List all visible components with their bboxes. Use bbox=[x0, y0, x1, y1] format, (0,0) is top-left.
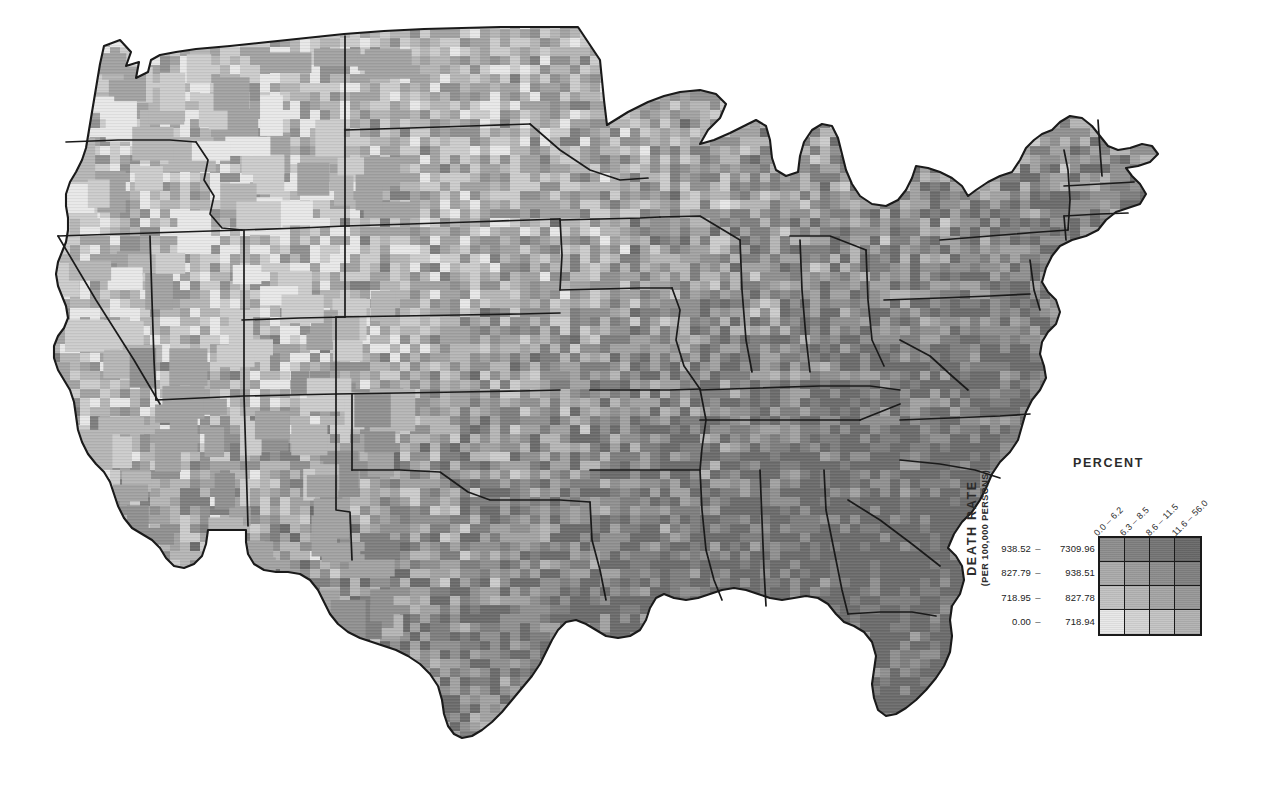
legend-row-dash: – bbox=[1031, 616, 1045, 627]
legend-swatch bbox=[1175, 538, 1200, 562]
legend-row-label: 0.00–718.94 bbox=[983, 610, 1095, 635]
legend-swatch bbox=[1150, 610, 1175, 634]
legend-row-label-list: 938.52–7309.96827.79–938.51718.95–827.78… bbox=[983, 536, 1095, 634]
map-legend: PERCENT DEATH RATE (PER 100,000 PERSONS)… bbox=[955, 448, 1220, 653]
legend-row-low: 0.00 bbox=[989, 616, 1031, 627]
legend-swatch bbox=[1125, 538, 1150, 562]
legend-row-label: 827.79–938.51 bbox=[983, 561, 1095, 586]
legend-row-label: 718.95–827.78 bbox=[983, 585, 1095, 610]
legend-column-label-list: 0.0 – 6.26.3 – 8.58.6 – 11.511.6 – 56.0 bbox=[1095, 460, 1215, 538]
legend-row-high: 827.78 bbox=[1045, 592, 1095, 603]
legend-swatch bbox=[1100, 562, 1125, 586]
legend-row-label: 938.52–7309.96 bbox=[983, 536, 1095, 561]
map-page: PERCENT DEATH RATE (PER 100,000 PERSONS)… bbox=[0, 0, 1267, 793]
legend-color-matrix bbox=[1098, 536, 1202, 636]
legend-swatch bbox=[1125, 610, 1150, 634]
us-county-map-graphic bbox=[0, 0, 1267, 793]
legend-row-low: 718.95 bbox=[989, 592, 1031, 603]
legend-swatch bbox=[1150, 538, 1175, 562]
legend-swatch bbox=[1125, 586, 1150, 610]
legend-row-dash: – bbox=[1031, 567, 1045, 578]
legend-death-rate-title: DEATH RATE bbox=[965, 468, 979, 588]
choropleth-map-figure bbox=[0, 0, 1267, 793]
legend-swatch bbox=[1150, 586, 1175, 610]
legend-row-high: 718.94 bbox=[1045, 616, 1095, 627]
legend-row-high: 7309.96 bbox=[1045, 543, 1095, 554]
legend-row-high: 938.51 bbox=[1045, 567, 1095, 578]
legend-row-low: 827.79 bbox=[989, 567, 1031, 578]
legend-swatch bbox=[1100, 610, 1125, 634]
legend-swatch bbox=[1150, 562, 1175, 586]
legend-swatch bbox=[1175, 610, 1200, 634]
legend-row-dash: – bbox=[1031, 592, 1045, 603]
legend-row-dash: – bbox=[1031, 543, 1045, 554]
legend-swatch bbox=[1175, 586, 1200, 610]
legend-swatch bbox=[1125, 562, 1150, 586]
legend-swatch bbox=[1100, 586, 1125, 610]
legend-swatch bbox=[1100, 538, 1125, 562]
legend-swatch bbox=[1175, 562, 1200, 586]
legend-row-low: 938.52 bbox=[989, 543, 1031, 554]
